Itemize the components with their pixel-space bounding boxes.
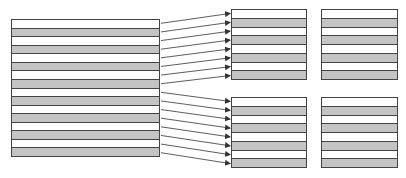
- arrow-12: [161, 118, 230, 128]
- arrow-3: [161, 31, 230, 40]
- arrow-9: [161, 92, 230, 101]
- arrow-14: [161, 135, 230, 145]
- arrow-16: [161, 153, 230, 164]
- arrow-5: [161, 49, 230, 58]
- mapping-arrows: [0, 0, 406, 178]
- arrow-6: [161, 58, 230, 67]
- arrow-1: [161, 13, 230, 23]
- arrow-7: [161, 67, 230, 75]
- arrow-15: [161, 144, 230, 155]
- arrow-10: [161, 101, 230, 110]
- arrow-11: [161, 110, 230, 120]
- arrow-2: [161, 22, 230, 32]
- arrow-4: [161, 40, 230, 49]
- arrow-13: [161, 127, 230, 137]
- arrow-8: [161, 76, 230, 84]
